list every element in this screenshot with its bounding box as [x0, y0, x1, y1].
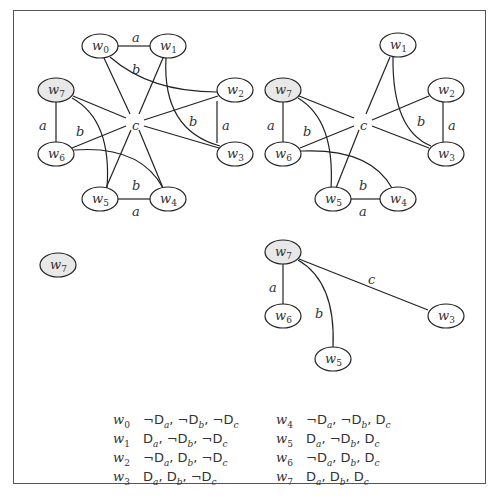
edge-label-b: b: [132, 178, 140, 193]
node-subscript: 1: [171, 45, 177, 55]
edge-w7-w5-b: [72, 98, 108, 188]
world-valuation: Da, Db, Dc: [306, 469, 369, 484]
world-valuation: ¬Da, Db, ¬Dc: [143, 450, 228, 465]
edge-w4-c: [139, 130, 163, 188]
world-node-w7: w7: [265, 78, 301, 102]
world-node-w2: w2: [217, 78, 253, 102]
legend-row-w5: w5Da, ¬Db, Dc: [276, 429, 391, 448]
kripke-model-diagram: w0w1w2w3w4w5w6w7w1w2w3w4w5w6w7w7w7w6w5w3…: [0, 0, 499, 498]
node-subscript: 2: [449, 89, 455, 99]
world-node-w3: w3: [428, 304, 464, 328]
edge-label-b: b: [76, 124, 84, 139]
edge-w7-c: [299, 96, 354, 118]
node-subscript: 4: [401, 198, 407, 208]
edge-label-b: b: [315, 306, 323, 321]
edge-w7-w3-c: [299, 259, 428, 310]
edge-w5-c: [106, 130, 131, 188]
world-valuation: Da, ¬Db, ¬Dc: [143, 431, 228, 446]
nodes-layer: w0w1w2w3w4w5w6w7w1w2w3w4w5w6w7w7w7w6w5w3: [38, 33, 464, 371]
edge-w1-c: [366, 57, 390, 114]
edge-label-c: c: [132, 118, 140, 133]
world-node-w4: w4: [150, 187, 186, 211]
edge-w5-c: [336, 130, 359, 188]
world-node-w1: w1: [150, 34, 186, 58]
edge-w3-c: [144, 126, 219, 148]
node-subscript: 5: [336, 198, 342, 208]
edge-label-b: b: [132, 62, 140, 77]
edge-label-a: a: [132, 30, 140, 45]
node-subscript: 3: [449, 315, 455, 325]
legend-row-w0: w0¬Da, ¬Db, ¬Dc: [113, 410, 238, 429]
edge-label-a: a: [222, 118, 230, 133]
world-name: w7: [276, 467, 306, 492]
world-node-w5: w5: [315, 347, 351, 371]
edge-label-c: c: [368, 272, 376, 287]
legend-column-right: w4¬Da, ¬Db, Dcw5Da, ¬Db, Dcw6¬Da, Db, Dc…: [276, 410, 391, 486]
world-node-w6: w6: [265, 142, 301, 166]
legend-row-w1: w1Da, ¬Db, ¬Dc: [113, 429, 238, 448]
edge-label-a: a: [359, 204, 367, 219]
world-node-w4: w4: [380, 187, 416, 211]
world-valuation: ¬Da, Db, Dc: [306, 450, 380, 465]
node-subscript: 5: [103, 198, 109, 208]
node-subscript: 7: [61, 264, 67, 274]
world-node-w2: w2: [428, 78, 464, 102]
world-valuation: ¬Da, ¬Db, ¬Dc: [143, 412, 238, 427]
legend-row-w6: w6¬Da, Db, Dc: [276, 448, 391, 467]
edge-label-b: b: [189, 114, 197, 129]
node-subscript: 0: [103, 45, 109, 55]
edge-label-a: a: [269, 280, 277, 295]
world-node-w5: w5: [315, 187, 351, 211]
edge-w7-c: [73, 96, 126, 118]
node-subscript: 7: [286, 89, 292, 99]
edge-w0-w2-b: [110, 57, 217, 92]
node-subscript: 6: [59, 153, 65, 163]
world-node-w3: w3: [428, 142, 464, 166]
edge-label-b: b: [359, 178, 367, 193]
world-node-w6: w6: [38, 142, 74, 166]
world-valuation: ¬Da, ¬Db, Dc: [306, 412, 391, 427]
edge-w1-w3-b: [393, 57, 431, 146]
world-valuation: Da, ¬Db, Dc: [306, 431, 380, 446]
node-subscript: 6: [286, 315, 292, 325]
edge-w7-w5-b: [298, 260, 333, 347]
edge-w6-w4-b: [301, 151, 392, 188]
legend-row-w4: w4¬Da, ¬Db, Dc: [276, 410, 391, 429]
world-node-w3: w3: [217, 142, 253, 166]
world-node-w5: w5: [82, 187, 118, 211]
legend-row-w7: w7Da, Db, Dc: [276, 467, 391, 486]
world-node-w7: w7: [265, 240, 301, 264]
node-subscript: 6: [286, 153, 292, 163]
legend-row-w2: w2¬Da, Db, ¬Dc: [113, 448, 238, 467]
node-subscript: 4: [171, 198, 177, 208]
node-subscript: 1: [401, 44, 407, 54]
legend-row-w3: w3Da, Db, ¬Dc: [113, 467, 238, 486]
node-subscript: 3: [238, 153, 244, 163]
edge-w0-c: [104, 58, 130, 114]
node-subscript: 5: [336, 358, 342, 368]
edge-label-c: c: [360, 118, 368, 133]
world-node-w7: w7: [40, 253, 76, 277]
world-node-w6: w6: [265, 304, 301, 328]
edge-label-a: a: [448, 118, 456, 133]
edge-w1-c: [139, 58, 163, 114]
edge-label-b: b: [417, 114, 425, 129]
edge-label-b: b: [303, 124, 311, 139]
edge-label-a: a: [39, 118, 47, 133]
edge-label-a: a: [132, 204, 140, 219]
node-subscript: 2: [238, 89, 244, 99]
edge-w2-c: [144, 96, 218, 120]
edge-w7-w5-b: [298, 98, 331, 188]
world-node-w1: w1: [380, 33, 416, 57]
node-subscript: 3: [449, 153, 455, 163]
node-subscript: 7: [59, 89, 65, 99]
node-subscript: 7: [286, 251, 292, 261]
edge-w1-w3-b: [166, 58, 220, 146]
edge-label-a: a: [267, 118, 275, 133]
edge-w3-c: [372, 126, 429, 148]
graph-bottom-right-edges: [283, 259, 428, 347]
world-name: w3: [113, 467, 143, 492]
world-node-w0: w0: [82, 34, 118, 58]
legend-column-left: w0¬Da, ¬Db, ¬Dcw1Da, ¬Db, ¬Dcw2¬Da, Db, …: [113, 410, 238, 486]
world-valuation: Da, Db, ¬Dc: [143, 469, 217, 484]
